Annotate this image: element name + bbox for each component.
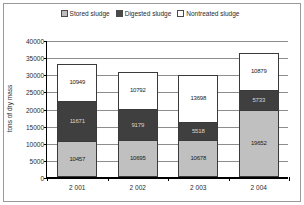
bar-segment[interactable]: 10678 <box>178 140 218 177</box>
bar-segment[interactable]: 10879 <box>239 53 279 90</box>
plot-area: 0500010000150002000025000300003500040000… <box>46 41 288 178</box>
bars-layer: 1094911671104571079291791069513698551810… <box>47 41 288 177</box>
x-tick-label: 2 004 <box>251 184 267 191</box>
bar-value-label: 5518 <box>192 128 205 135</box>
chart-screenshot: Stored sludge Digested sludge Nontreated… <box>0 0 304 205</box>
bar-group[interactable]: 109491167110457 <box>57 41 97 177</box>
bar-value-label: 10879 <box>251 68 267 75</box>
bar-group[interactable]: 10792917910695 <box>118 41 158 177</box>
y-tick-label: 0 <box>40 175 44 182</box>
bar-value-label: 9179 <box>131 122 144 129</box>
y-tick-label: 40000 <box>26 38 44 45</box>
bar-segment[interactable]: 13698 <box>178 75 218 122</box>
bar-stack[interactable]: 109491167110457 <box>57 64 97 177</box>
bar-segment[interactable]: 10792 <box>118 72 158 109</box>
bar-value-label: 11671 <box>70 118 85 125</box>
bar-value-label: 10678 <box>190 155 206 162</box>
x-tick-mark <box>47 177 48 181</box>
bar-value-label: 13698 <box>190 95 206 102</box>
bar-group[interactable]: 10879573319652 <box>239 41 279 177</box>
y-tick-label: 30000 <box>26 72 44 79</box>
bar-segment[interactable]: 11671 <box>57 101 97 141</box>
bar-segment[interactable]: 10949 <box>57 64 97 102</box>
y-tick-label: 5000 <box>30 157 44 164</box>
bar-value-label: 10457 <box>69 156 85 163</box>
bar-segment[interactable]: 19652 <box>239 110 279 177</box>
bar-segment[interactable]: 10457 <box>57 141 97 177</box>
bar-group[interactable]: 13698551810678 <box>178 41 218 177</box>
x-tick-mark <box>229 177 230 181</box>
y-tick-label: 25000 <box>26 89 44 96</box>
y-axis-title: tons of dry mass <box>6 59 13 159</box>
bar-value-label: 19652 <box>251 140 267 147</box>
bar-value-label: 10949 <box>69 79 85 86</box>
bar-value-label: 10792 <box>130 87 146 94</box>
x-tick-mark <box>168 177 169 181</box>
bar-stack[interactable]: 10792917910695 <box>118 72 158 177</box>
bar-value-label: 10695 <box>130 155 146 162</box>
y-tick-label: 20000 <box>26 106 44 113</box>
y-tick-label: 15000 <box>26 123 44 130</box>
bar-value-label: 5733 <box>252 97 265 104</box>
x-tick-label: 2 002 <box>130 184 146 191</box>
bar-segment[interactable]: 5518 <box>178 122 218 141</box>
x-tick-mark <box>108 177 109 181</box>
x-tick-mark <box>289 177 290 181</box>
chart-plot-wrapper: tons of dry mass 05000100001500020000250… <box>0 0 304 205</box>
bar-segment[interactable]: 5733 <box>239 90 279 110</box>
y-tick-label: 10000 <box>26 140 44 147</box>
bar-stack[interactable]: 10879573319652 <box>239 53 279 177</box>
bar-segment[interactable]: 9179 <box>118 109 158 140</box>
y-tick-label: 35000 <box>26 55 44 62</box>
bar-stack[interactable]: 13698551810678 <box>178 75 218 177</box>
x-tick-label: 2 001 <box>69 184 85 191</box>
bar-segment[interactable]: 10695 <box>118 140 158 177</box>
x-tick-label: 2 003 <box>190 184 206 191</box>
